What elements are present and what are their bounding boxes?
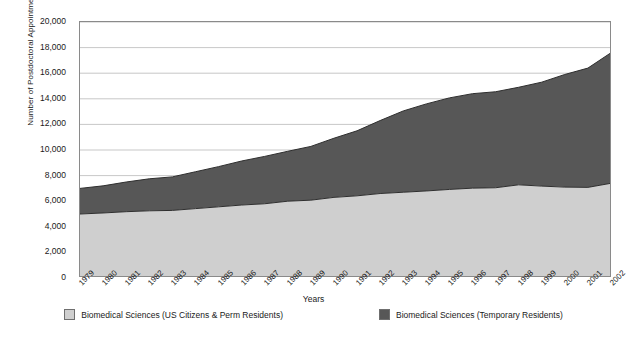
- legend-item-temporary-residents: Biomedical Sciences (Temporary Residents…: [379, 309, 563, 320]
- x-tick-label: 1988: [285, 268, 304, 287]
- x-tick-label: 1991: [354, 268, 373, 287]
- x-axis-title: Years: [0, 294, 627, 304]
- x-tick-label: 1987: [262, 268, 281, 287]
- x-tick-label: 1983: [169, 268, 188, 287]
- area-chart: Number of Postdoctoral Appointments 02,0…: [0, 0, 627, 339]
- x-tick-label: 1982: [146, 268, 165, 287]
- x-tick-label: 1986: [239, 268, 258, 287]
- chart-legend: Biomedical Sciences (US Citizens & Perm …: [0, 309, 627, 320]
- x-tick-label: 2002: [608, 268, 627, 287]
- legend-label-us-citizens: Biomedical Sciences (US Citizens & Perm …: [81, 310, 283, 320]
- x-tick-label: 1984: [192, 268, 211, 287]
- x-tick-label: 1979: [77, 268, 96, 287]
- x-tick-label: 1980: [100, 268, 119, 287]
- x-tick-label: 1996: [469, 268, 488, 287]
- x-tick-label: 2001: [585, 268, 604, 287]
- x-tick-label: 1994: [423, 268, 442, 287]
- x-tick-label: 1992: [377, 268, 396, 287]
- x-tick-label: 1999: [539, 268, 558, 287]
- x-tick-label: 1981: [123, 268, 142, 287]
- x-tick-label: 2000: [562, 268, 581, 287]
- x-tick-label: 1995: [446, 268, 465, 287]
- x-tick-label: 1989: [308, 268, 327, 287]
- legend-label-temporary-residents: Biomedical Sciences (Temporary Residents…: [396, 310, 563, 320]
- legend-swatch-icon-us-citizens: [64, 309, 75, 320]
- legend-swatch-icon-temporary-residents: [379, 309, 390, 320]
- x-tick-label: 1993: [400, 268, 419, 287]
- x-tick-label: 1998: [516, 268, 535, 287]
- x-tick-label: 1997: [493, 268, 512, 287]
- x-tick-label: 1985: [216, 268, 235, 287]
- x-axis-tick-labels: 1979198019811982198319841985198619871988…: [0, 0, 627, 339]
- x-tick-label: 1990: [331, 268, 350, 287]
- legend-item-us-citizens: Biomedical Sciences (US Citizens & Perm …: [64, 309, 283, 320]
